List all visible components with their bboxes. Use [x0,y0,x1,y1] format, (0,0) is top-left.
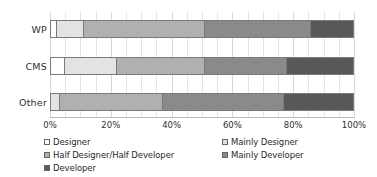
x-axis-tick-label: 40% [152,120,192,130]
bar-segment [311,21,353,37]
legend-swatch-icon [222,139,228,145]
bar-segment [51,94,60,110]
x-axis-tick-label: 0% [30,120,70,130]
legend-item[interactable]: Mainly Designer [222,135,304,148]
legend-label: Developer [53,163,96,173]
bar-segment [65,58,118,74]
bar-segment [287,58,353,74]
x-axis-tick-label: 80% [273,120,313,130]
bar-row [50,57,354,75]
legend-column-right: Mainly DesignerMainly Developer [222,135,304,161]
bar-segment [51,58,65,74]
legend-column-left: DesignerHalf Designer/Half DeveloperDeve… [44,135,174,174]
bar-row [50,93,354,111]
x-axis-tick-label: 60% [212,120,252,130]
legend-swatch-icon [44,165,50,171]
legend-swatch-icon [44,152,50,158]
bar-row [50,20,354,38]
bar-segment [284,94,353,110]
bar-segment [205,58,287,74]
bar-segment [163,94,284,110]
y-axis-label-cms: CMS [0,61,47,72]
legend-item[interactable]: Half Designer/Half Developer [44,148,174,161]
x-axis-tick-label: 100% [334,120,374,130]
legend-item[interactable]: Developer [44,161,174,174]
legend-item[interactable]: Mainly Developer [222,148,304,161]
legend-swatch-icon [44,139,50,145]
bar-segment [117,58,205,74]
legend-label: Mainly Designer [231,137,298,147]
x-axis-line [50,117,355,118]
x-axis-tick-label: 20% [91,120,131,130]
bar-segment [84,21,205,37]
stacked-bar-chart: WP CMS Other 0%20%40%60%80%100% Designer… [0,0,377,177]
legend-label: Mainly Developer [231,150,304,160]
plot-area [50,12,354,117]
y-axis-label-other: Other [0,97,47,108]
y-axis-label-wp: WP [0,24,47,35]
bar-segment [60,94,163,110]
bar-segment [57,21,84,37]
legend-swatch-icon [222,152,228,158]
legend-item[interactable]: Designer [44,135,174,148]
bar-segment [205,21,311,37]
legend-label: Designer [53,137,90,147]
gridline [354,12,355,117]
legend-label: Half Designer/Half Developer [53,150,174,160]
